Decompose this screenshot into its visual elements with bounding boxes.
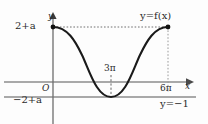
function-label: y=f(x) xyxy=(140,11,171,21)
x-tick-label-6pi: 6π xyxy=(160,84,172,93)
x-tick-label-3pi: 3π xyxy=(104,64,116,73)
x-axis-label: x xyxy=(185,82,190,91)
function-curve xyxy=(53,27,168,97)
origin-label: O xyxy=(42,84,49,93)
left-endpoint-dot xyxy=(51,25,56,30)
right-endpoint-dot xyxy=(166,25,171,30)
asymptote-label: y=−1 xyxy=(160,99,189,109)
function-graph-figure: y x 2+a −2+a y=f(x) y=−1 O 3π 6π xyxy=(0,0,208,124)
min-value-label: −2+a xyxy=(13,95,42,105)
max-value-label: 2+a xyxy=(15,21,36,31)
y-axis-label: y xyxy=(48,12,53,21)
